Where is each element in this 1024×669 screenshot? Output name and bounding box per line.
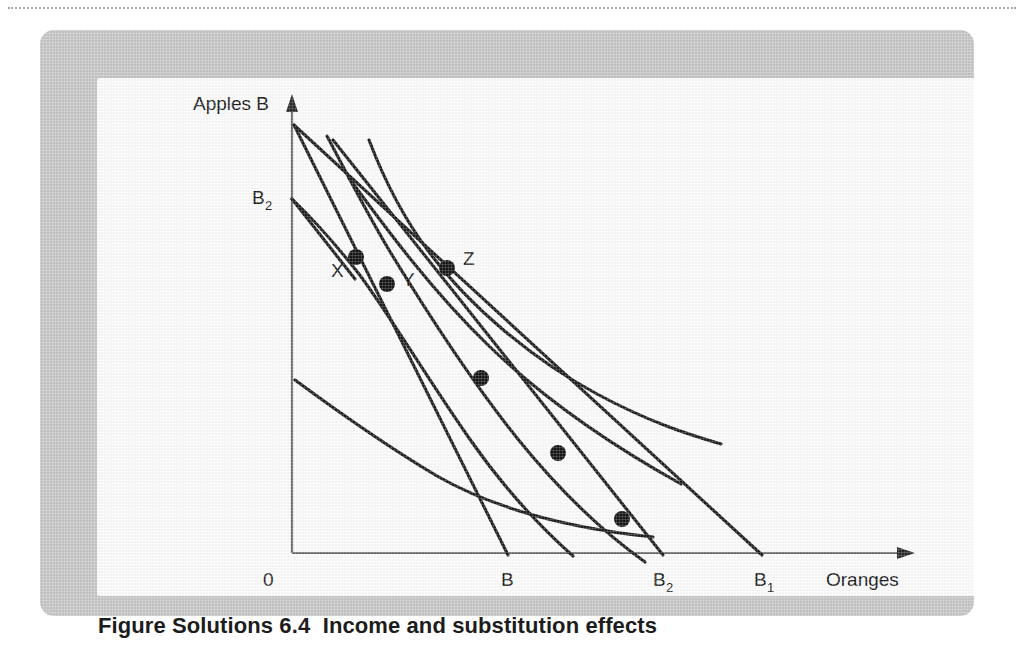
figure-caption: Figure Solutions 6.4 Income and substitu… bbox=[98, 608, 998, 644]
budget-line-b2-axis-stub bbox=[292, 199, 355, 279]
page-top-rule bbox=[8, 7, 1016, 9]
point-dot-6 bbox=[614, 511, 630, 527]
budget-line-b1 bbox=[294, 125, 762, 555]
point-dot-4 bbox=[473, 370, 489, 386]
point-y-dot bbox=[379, 276, 395, 292]
x-axis bbox=[292, 547, 915, 559]
x-tick-b2: B 2 bbox=[653, 569, 673, 595]
x-tick-b2-base: B bbox=[653, 569, 666, 590]
y-tick-b2-base: B bbox=[252, 187, 265, 208]
y-tick-b2-subscript: 2 bbox=[265, 198, 272, 213]
budget-line-b2-compensated bbox=[333, 140, 663, 555]
x-tick-b1: B 1 bbox=[754, 569, 774, 595]
budget-line-b bbox=[294, 125, 508, 555]
plot-panel: Apples B B 2 X Y Z 0 B B 2 bbox=[97, 78, 997, 596]
x-axis-arrow-icon bbox=[897, 547, 915, 559]
y-axis bbox=[286, 94, 298, 553]
y-axis-title: Apples B bbox=[193, 93, 269, 114]
figure-chart: Apples B B 2 X Y Z 0 B B 2 bbox=[97, 78, 997, 596]
y-axis-arrow-icon bbox=[286, 94, 298, 112]
x-tick-b2-subscript: 2 bbox=[666, 580, 673, 595]
point-label-z: Z bbox=[463, 248, 475, 269]
x-tick-b1-base: B bbox=[754, 569, 767, 590]
origin-label: 0 bbox=[263, 569, 274, 590]
point-label-y: Y bbox=[402, 269, 415, 290]
x-axis-title: Oranges bbox=[826, 569, 899, 590]
point-dot-5 bbox=[550, 445, 566, 461]
point-x-dot bbox=[348, 249, 364, 265]
x-tick-b1-subscript: 1 bbox=[767, 580, 774, 595]
figure-frame: Apples B B 2 X Y Z 0 B B 2 bbox=[40, 30, 974, 616]
indifference-curve-high bbox=[369, 140, 721, 444]
figure-page: Apples B B 2 X Y Z 0 B B 2 bbox=[0, 0, 1024, 669]
point-label-x: X bbox=[331, 260, 344, 281]
y-tick-b2: B 2 bbox=[252, 187, 272, 213]
point-z-dot bbox=[439, 260, 455, 276]
x-tick-b: B bbox=[501, 569, 514, 590]
